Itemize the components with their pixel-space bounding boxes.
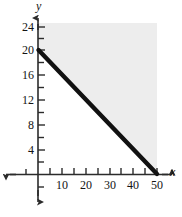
- x-tick-label-30: 30: [104, 179, 116, 191]
- x-tick-label-10: 10: [56, 179, 68, 191]
- solution-region: [38, 23, 157, 174]
- x-axis-ticks: [26, 168, 157, 175]
- y-tick-label-20: 20: [22, 44, 34, 56]
- y-tick-label-8: 8: [28, 119, 34, 131]
- y-tick-label-24: 24: [22, 21, 34, 33]
- y-axis-label: y: [36, 0, 41, 12]
- y-tick-label-16: 16: [22, 69, 34, 81]
- x-tick-label-20: 20: [80, 179, 92, 191]
- graph-figure: y x 24 20 16 12 8 4 10 20 30 40 50: [0, 0, 182, 217]
- y-tick-label-12: 12: [22, 94, 34, 106]
- y-tick-label-4: 4: [28, 144, 34, 156]
- x-tick-label-50: 50: [151, 179, 163, 191]
- x-axis-label: x: [170, 166, 175, 178]
- x-tick-label-40: 40: [127, 179, 139, 191]
